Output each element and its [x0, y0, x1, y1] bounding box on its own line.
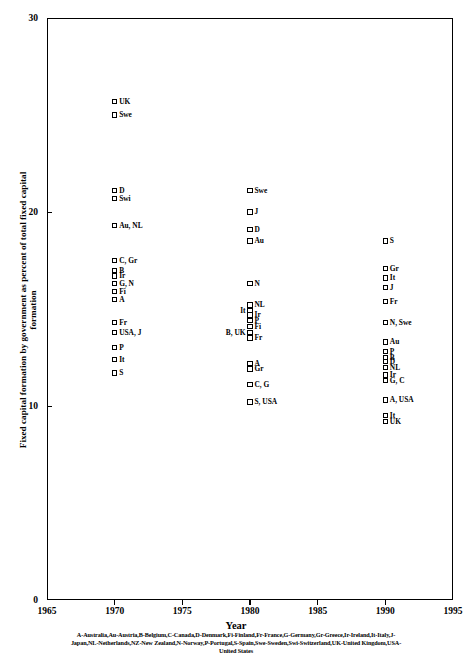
data-point-marker — [112, 223, 117, 228]
data-point-marker — [247, 209, 252, 214]
data-point-marker — [383, 266, 388, 271]
data-point-marker — [247, 188, 252, 193]
data-point-label: Gr — [390, 265, 399, 272]
data-point-label: It — [240, 307, 245, 314]
data-point-marker — [112, 273, 117, 278]
data-point-label: Fr — [119, 319, 127, 326]
data-point-label: Au — [390, 338, 399, 345]
data-point-marker — [247, 281, 252, 286]
data-point-marker — [112, 297, 117, 302]
data-point-marker — [383, 378, 388, 383]
data-point-marker — [383, 285, 388, 290]
data-point-marker — [247, 335, 252, 340]
x-axis-tick-label: 1995 — [430, 606, 472, 617]
data-point-label: A, USA — [390, 396, 414, 403]
data-point-label: Au — [255, 237, 264, 244]
country-key-line-3: United States — [36, 647, 436, 655]
data-point-label: Gr — [255, 365, 264, 372]
data-point-label: It — [119, 356, 124, 363]
scatter-chart: 0102030 1965197019751980198519901995 UKS… — [0, 0, 472, 657]
country-key-line-1: A-Australia,Au-Austria,B-Belgium,C-Canad… — [36, 631, 436, 639]
x-axis-tick-label: 1980 — [227, 606, 273, 617]
x-axis-tick-mark — [249, 600, 250, 605]
data-point-label: Swe — [119, 111, 132, 118]
data-point-label: G, C — [390, 377, 405, 384]
data-point-label: N — [255, 280, 260, 287]
data-point-marker — [112, 370, 117, 375]
data-point-label: S — [119, 369, 123, 376]
data-point-label: N, Swe — [390, 319, 412, 326]
x-axis-tick-label: 1990 — [362, 606, 408, 617]
x-axis-tick-label: 1985 — [295, 606, 341, 617]
data-point-label: It — [390, 274, 395, 281]
data-point-marker — [383, 372, 388, 377]
data-point-marker — [383, 275, 388, 280]
x-axis-title: Year — [0, 620, 472, 631]
x-axis-tick-label: 1975 — [159, 606, 205, 617]
data-point-marker — [247, 312, 252, 317]
data-point-marker — [247, 227, 252, 232]
data-point-label: USA, J — [119, 329, 141, 336]
data-point-marker — [112, 268, 117, 273]
data-point-marker — [383, 349, 388, 354]
data-point-marker — [247, 399, 252, 404]
data-point-marker — [383, 413, 388, 418]
y-axis-title: Fixed capital formation by government as… — [18, 160, 38, 460]
data-point-label: Swi — [119, 195, 131, 202]
data-point-label: Fr — [255, 334, 263, 341]
country-key-line-2: Japan,NL-Netherlands,NZ-New Zealand,N-No… — [36, 639, 436, 647]
data-point-marker — [247, 302, 252, 307]
data-point-marker — [112, 258, 117, 263]
data-point-marker — [383, 397, 388, 402]
data-point-label: D — [255, 226, 260, 233]
data-point-label: C, G — [255, 381, 270, 388]
x-axis-tick-label: 1970 — [92, 606, 138, 617]
data-point-marker — [383, 419, 388, 424]
data-point-label: UK — [119, 98, 130, 105]
data-point-label: S, USA — [255, 398, 278, 405]
data-point-label: Fr — [390, 298, 398, 305]
data-point-marker — [247, 382, 252, 387]
x-axis-tick-mark — [317, 600, 318, 605]
data-point-label: Fi — [255, 323, 262, 330]
data-point-marker — [383, 299, 388, 304]
data-point-label: S — [390, 237, 394, 244]
data-point-marker — [112, 289, 117, 294]
data-point-marker — [247, 366, 252, 371]
data-point-marker — [247, 330, 252, 335]
data-point-marker — [112, 281, 117, 286]
x-axis-tick-mark — [114, 600, 115, 605]
data-point-marker — [383, 238, 388, 243]
data-point-marker — [247, 238, 252, 243]
data-point-marker — [112, 196, 117, 201]
data-point-marker — [112, 188, 117, 193]
y-axis-tick-mark — [47, 406, 52, 407]
data-point-marker — [247, 324, 252, 329]
data-point-marker — [383, 339, 388, 344]
x-axis-tick-label: 1965 — [24, 606, 70, 617]
data-point-marker — [112, 320, 117, 325]
y-axis-tick-label: 30 — [8, 13, 38, 23]
data-point-marker — [383, 320, 388, 325]
data-point-marker — [247, 361, 252, 366]
data-point-label: Au, NL — [119, 222, 142, 229]
data-point-label: J — [390, 284, 394, 291]
data-point-label: C, Gr — [119, 257, 137, 264]
country-abbreviation-key: A-Australia,Au-Austria,B-Belgium,C-Canad… — [36, 631, 436, 656]
data-point-marker — [112, 330, 117, 335]
data-point-marker — [112, 357, 117, 362]
data-point-marker — [247, 318, 252, 323]
data-point-label: B, UK — [226, 329, 246, 336]
data-point-label: P — [119, 344, 124, 351]
data-point-marker — [383, 365, 388, 370]
data-point-label: J — [255, 208, 259, 215]
x-axis-tick-mark — [385, 600, 386, 605]
data-point-label: Swe — [255, 187, 268, 194]
data-point-marker — [112, 112, 117, 117]
data-point-label: UK — [390, 418, 401, 425]
x-axis-tick-mark — [182, 600, 183, 605]
data-point-marker — [383, 359, 388, 364]
data-point-marker — [112, 99, 117, 104]
data-point-marker — [112, 345, 117, 350]
y-axis-tick-label: 0 — [8, 595, 38, 605]
